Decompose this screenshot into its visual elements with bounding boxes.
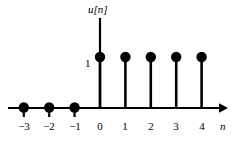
signal-name-label: u[n]: [88, 3, 108, 15]
sample-dot: [44, 102, 54, 112]
sample-stem-n-minus-1: [69, 102, 79, 117]
tick-label-n-minus-1: −1: [63, 120, 87, 132]
sample-stem-n-minus-2: [44, 102, 54, 117]
sample-dot: [19, 102, 29, 112]
unit-step-stem-plot-figure: u[n] 1 −3 −2 −1 0 1 2 3 4 n: [0, 0, 241, 146]
sample-stem-n-4: [196, 52, 206, 108]
x-axis-arrowhead: [219, 103, 228, 113]
x-axis: [8, 103, 228, 113]
tick-label-n-1: 1: [113, 120, 137, 132]
tick-label-n-minus-2: −2: [37, 120, 61, 132]
amplitude-tick-label: 1: [85, 57, 91, 69]
sample-dot: [95, 52, 105, 62]
x-axis-name-label: n: [220, 120, 226, 132]
sample-dot: [120, 52, 130, 62]
tick-label-n-2: 2: [139, 120, 163, 132]
tick-label-n-4: 4: [190, 120, 214, 132]
sample-stem-n-minus-3: [19, 102, 29, 117]
sample-dot: [146, 52, 156, 62]
tick-label-n-minus-3: −3: [12, 120, 36, 132]
sample-dot: [171, 52, 181, 62]
sample-stem-n-3: [171, 52, 181, 108]
tick-label-n-0: 0: [88, 120, 112, 132]
sample-stem-n-1: [120, 52, 130, 108]
tick-label-n-3: 3: [164, 120, 188, 132]
sample-dot: [69, 102, 79, 112]
sample-stem-n-2: [146, 52, 156, 108]
sample-dot: [196, 52, 206, 62]
sample-stem-n-0: [95, 52, 105, 108]
